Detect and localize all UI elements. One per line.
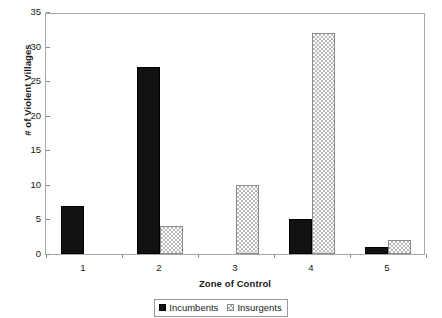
bar-insurgents-5 (388, 240, 411, 254)
y-axis-tick-label: 5 (36, 213, 41, 224)
y-axis-tick-mark (46, 12, 50, 13)
y-axis-tick-label: 25 (30, 75, 41, 86)
x-axis-tick-mark (426, 254, 427, 258)
plot-area: 05101520253035 (45, 13, 425, 255)
x-axis-tick-mark (122, 254, 123, 258)
bar-insurgents-4 (312, 33, 335, 254)
x-axis-tick-mark (274, 254, 275, 258)
y-axis-tick-mark (46, 219, 50, 220)
x-axis-tick-mark (46, 254, 47, 258)
y-axis-tick-mark (46, 47, 50, 48)
bar-chart: # of Violent Villages 05101520253035 123… (0, 0, 442, 318)
legend-swatch-incumbents-icon (159, 304, 166, 311)
y-axis-tick-mark (46, 150, 50, 151)
x-axis-tick-mark (198, 254, 199, 258)
x-axis-category-label: 2 (139, 262, 179, 273)
bar-incumbents-1 (61, 206, 84, 254)
y-axis-tick-label: 35 (30, 6, 41, 17)
legend-entry-insurgents[interactable]: Insurgents (227, 302, 281, 313)
y-axis-tick-label: 30 (30, 41, 41, 52)
x-axis-tick-mark (350, 254, 351, 258)
legend-box: IncumbentsInsurgents (154, 299, 288, 317)
x-axis-category-label: 4 (291, 262, 331, 273)
x-axis-title: Zone of Control (45, 278, 425, 289)
y-axis-tick-mark (46, 116, 50, 117)
bar-incumbents-5 (365, 247, 388, 254)
bar-incumbents-2 (137, 67, 160, 254)
bar-incumbents-4 (289, 219, 312, 254)
x-axis-category-label: 3 (215, 262, 255, 273)
y-axis-tick-mark (46, 185, 50, 186)
bar-insurgents-3 (236, 185, 259, 254)
legend-entry-incumbents[interactable]: Incumbents (159, 302, 218, 313)
y-axis-tick-mark (46, 81, 50, 82)
legend-label: Insurgents (237, 302, 281, 313)
y-axis-tick-label: 15 (30, 144, 41, 155)
bar-insurgents-2 (160, 226, 183, 254)
legend: IncumbentsInsurgents (0, 299, 442, 317)
y-axis-tick-label: 20 (30, 110, 41, 121)
x-axis-category-label: 1 (63, 262, 103, 273)
y-axis-tick-label: 0 (36, 248, 41, 259)
x-axis-category-label: 5 (367, 262, 407, 273)
legend-label: Incumbents (169, 302, 218, 313)
legend-swatch-insurgents-icon (227, 304, 234, 311)
y-axis-tick-label: 10 (30, 179, 41, 190)
